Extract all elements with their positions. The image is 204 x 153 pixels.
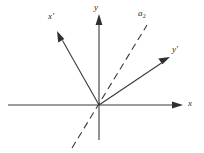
x-prime-axis-line — [63, 41, 100, 106]
y-axis-label: y — [94, 3, 98, 12]
a2-dashed-line — [72, 25, 147, 148]
y-prime-axis-arrowhead — [158, 57, 170, 64]
x-axis-arrowhead — [172, 102, 183, 109]
y-prime-axis-line — [99, 63, 162, 105]
y-prime-axis-label: y′ — [172, 45, 178, 54]
axes-svg-canvas — [0, 0, 204, 153]
x-axis-label: x — [188, 99, 192, 108]
a2-line-label: a2 — [138, 9, 146, 18]
y-axis-group — [96, 14, 103, 140]
x-prime-axis-label: x′ — [48, 12, 54, 21]
x-prime-axis-label-mark: ′ — [52, 11, 54, 21]
x-axis-group — [8, 102, 183, 109]
a2-dashed-line-group — [72, 25, 147, 148]
a2-line-label-base: a — [138, 8, 143, 18]
x-prime-axis-group — [57, 31, 99, 105]
coordinate-axes-figure: x′ y a2 y′ x — [0, 0, 204, 153]
y-prime-axis-group — [99, 57, 170, 105]
y-axis-arrowhead — [96, 14, 103, 25]
y-prime-axis-label-mark: ′ — [176, 44, 178, 54]
a2-line-label-subscript: 2 — [143, 13, 146, 19]
